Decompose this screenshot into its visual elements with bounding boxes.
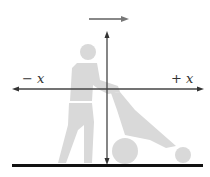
negative-x-label: − x [22,72,44,85]
x-axis-left-arrowhead-icon [12,87,19,92]
y-axis-down-arrowhead-icon [105,158,110,165]
y-axis-up-arrowhead-icon [105,31,110,38]
motion-arrow [89,16,129,22]
x-axis-right-arrowhead-icon [197,87,204,92]
person-figure [58,44,120,163]
motion-arrowhead-icon [121,16,129,22]
lawnmower-figure [111,92,191,164]
ground-line [12,164,203,167]
positive-x-label: + x [171,72,193,85]
diagram-canvas [0,0,210,177]
